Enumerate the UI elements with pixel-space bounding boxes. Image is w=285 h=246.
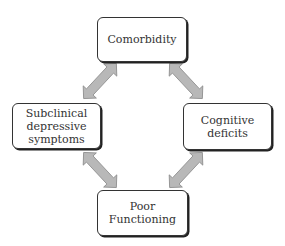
arrow-cognitive-functioning xyxy=(163,146,209,193)
arrow-comorbidity-subclinical xyxy=(77,57,123,104)
node-cognitive-deficits: Cognitive deficits xyxy=(183,103,272,150)
node-cognitive-label: Cognitive deficits xyxy=(184,114,271,140)
node-subclinical-depressive-symptoms: Subclinical depressive symptoms xyxy=(12,103,101,149)
node-poor-functioning: Poor Functioning xyxy=(97,190,188,236)
arrow-subclinical-functioning xyxy=(77,146,123,193)
node-comorbidity-label: Comorbidity xyxy=(107,33,176,46)
arrow-comorbidity-cognitive xyxy=(163,57,209,104)
node-comorbidity: Comorbidity xyxy=(97,17,187,62)
node-functioning-label: Poor Functioning xyxy=(98,200,187,226)
node-subclinical-label: Subclinical depressive symptoms xyxy=(23,107,90,146)
